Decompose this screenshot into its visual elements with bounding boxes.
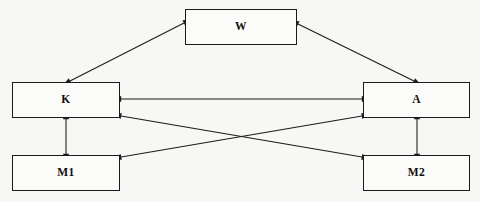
node-m2[interactable]: M2	[363, 155, 470, 191]
node-m1[interactable]: M1	[12, 155, 120, 191]
edge-w-a	[298, 24, 414, 81]
edge-k-w	[70, 23, 184, 81]
node-label-m1: M1	[57, 167, 74, 179]
node-label-k: K	[61, 94, 70, 106]
node-w[interactable]: W	[185, 9, 297, 45]
path-diagram: W K A M1 M2	[0, 0, 480, 202]
node-label-a: A	[412, 94, 421, 106]
node-label-m2: M2	[408, 167, 425, 179]
node-a[interactable]: A	[363, 82, 470, 118]
node-label-w: W	[235, 21, 247, 33]
node-k[interactable]: K	[12, 82, 120, 118]
